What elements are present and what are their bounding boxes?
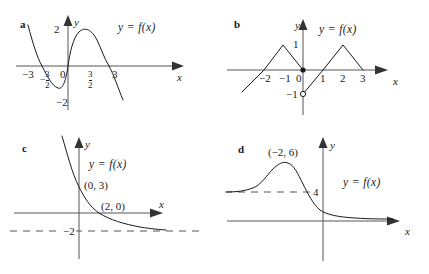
panel-b-curve-left — [242, 45, 303, 92]
panel-c: c y = f(x) y x (0, 3) (2, 0) −2 — [0, 131, 214, 268]
panel-b-x-axis-label: x — [393, 76, 398, 87]
panel-b-function-label: y = f(x) — [319, 24, 357, 36]
panel-d-y-axis-label: y — [330, 140, 335, 151]
panel-d-x-axis-label: x — [405, 226, 410, 237]
panel-d-curve — [227, 162, 393, 219]
panel-a-x-tick-3: 3 — [112, 69, 118, 80]
panel-d-point-label-minus2-6: (−2, 6) — [268, 147, 298, 158]
panel-a-frac-minus-sign: − — [40, 75, 46, 86]
panel-d: d y = f(x) y x (−2, 6) 4 — [215, 131, 429, 268]
panel-b-y-tick-1: 1 — [293, 39, 299, 50]
panel-a-y-axis-label: y — [74, 17, 79, 28]
panel-c-function-label: y = f(x) — [89, 159, 127, 171]
panel-c-y-axis-arrow — [75, 137, 84, 148]
panel-a-y-axis-arrow — [64, 15, 73, 26]
panel-d-x-axis-arrow — [387, 217, 400, 226]
panel-c-point-label-2-0: (2, 0) — [101, 201, 125, 212]
panel-a-x-tick-three-halves: 3 2 — [88, 70, 93, 91]
panel-c-letter: c — [22, 143, 27, 154]
panel-b-x-tick-minus-2: −2 — [259, 73, 271, 84]
panel-a-function-label: y = f(x) — [118, 22, 156, 34]
panel-d-function-label: y = f(x) — [343, 177, 381, 189]
panel-b-x-tick-1: 1 — [320, 73, 326, 84]
panel-a-x-axis-arrow — [172, 62, 184, 71]
panel-c-x-axis-label: x — [159, 199, 164, 210]
panel-b-x-tick-3: 3 — [360, 73, 366, 84]
panel-a-x-tick-minus-three-halves: − 3 2 — [45, 70, 50, 91]
panel-a-x-tick-minus-3: −3 — [22, 69, 34, 80]
panel-b-x-tick-0: 0 — [296, 73, 302, 84]
panel-a-letter: a — [20, 19, 26, 30]
panel-a-x-axis-label: x — [177, 72, 182, 83]
panel-b-y-tick-minus-1: −1 — [286, 89, 298, 100]
panel-c-asymptote-label: −2 — [62, 226, 76, 237]
panel-b: b y = f(x) y x 1 −1 −2 −1 0 1 2 3 — [215, 0, 429, 137]
panel-a-frac2-denominator: 2 — [88, 81, 93, 90]
panel-b-open-point-minus-one — [300, 91, 305, 96]
panel-a-x-tick-0: 0 — [60, 69, 66, 80]
panel-a: a y = f(x) y x 2 −2 −3 0 3 − 3 2 3 2 — [0, 0, 214, 137]
panel-b-y-axis-label: y — [295, 20, 300, 31]
panel-a-frac2-numerator: 3 — [88, 70, 93, 79]
panel-d-asymptote-label: 4 — [312, 187, 320, 198]
panel-a-y-tick-minus-2: −2 — [56, 97, 68, 108]
panel-b-x-axis-arrow — [375, 66, 388, 75]
panel-a-y-tick-2: 2 — [54, 24, 60, 35]
panel-a-curve — [28, 25, 123, 100]
panel-b-x-tick-minus-1: −1 — [279, 73, 291, 84]
panel-c-point-label-0-3: (0, 3) — [84, 180, 108, 191]
panel-d-y-axis-arrow — [319, 137, 328, 148]
panel-b-letter: b — [234, 19, 240, 30]
panel-c-y-axis-label: y — [85, 139, 90, 150]
panel-d-letter: d — [238, 144, 244, 155]
panel-b-plot — [215, 0, 429, 137]
panel-d-plot — [215, 131, 429, 268]
four-panel-function-graphs-figure: a y = f(x) y x 2 −2 −3 0 3 − 3 2 3 2 — [0, 0, 429, 274]
panel-b-x-tick-2: 2 — [340, 73, 346, 84]
